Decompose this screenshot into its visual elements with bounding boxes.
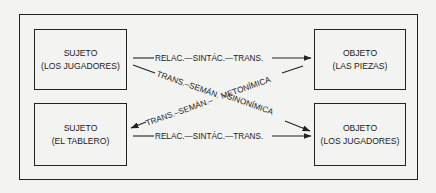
arrow-label-right: METONÍMICA (219, 74, 272, 101)
arrow-label: RELAC.—SINTÁC.—TRANS. (155, 53, 263, 63)
arrow-bottom-horizontal: RELAC.—SINTÁC.—TRANS. (133, 131, 311, 141)
arrow-label-left: TRANS.–SEMÁN.– (144, 95, 214, 128)
arrow-label: RELAC.—SINTÁC.—TRANS. (155, 131, 263, 141)
arrow-label-left: TRANS.–SEMÁN. (155, 68, 221, 99)
arrow-top-horizontal: RELAC.—SINTÁC.—TRANS. (133, 53, 311, 63)
arrows-layer: RELAC.—SINTÁC.—TRANS. RELAC.—SINTÁC.—TRA… (0, 0, 436, 193)
